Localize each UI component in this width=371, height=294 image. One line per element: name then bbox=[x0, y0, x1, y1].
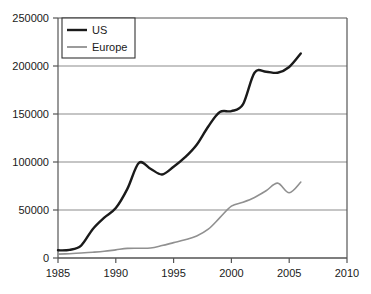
line-chart: 050000100000150000200000250000 198519901… bbox=[0, 0, 371, 294]
y-axis-ticks bbox=[53, 18, 58, 258]
x-tick-label: 1990 bbox=[104, 267, 128, 279]
legend-label-europe: Europe bbox=[92, 41, 127, 53]
legend-label-us: US bbox=[92, 24, 107, 36]
y-tick-label: 150000 bbox=[12, 108, 49, 120]
x-axis-tick-labels: 198519901995200020052010 bbox=[46, 267, 359, 279]
y-tick-label: 100000 bbox=[12, 156, 49, 168]
x-tick-label: 2005 bbox=[277, 267, 301, 279]
x-tick-label: 1985 bbox=[46, 267, 70, 279]
x-tick-label: 2010 bbox=[335, 267, 359, 279]
y-tick-label: 250000 bbox=[12, 12, 49, 24]
chart-canvas: 050000100000150000200000250000 198519901… bbox=[0, 0, 371, 294]
y-axis-tick-labels: 050000100000150000200000250000 bbox=[12, 12, 49, 264]
y-tick-label: 0 bbox=[43, 252, 49, 264]
y-tick-label: 200000 bbox=[12, 60, 49, 72]
y-tick-label: 50000 bbox=[18, 204, 49, 216]
legend: US Europe bbox=[62, 18, 135, 58]
x-axis-ticks bbox=[58, 258, 347, 263]
x-tick-label: 2000 bbox=[219, 267, 243, 279]
x-tick-label: 1995 bbox=[161, 267, 185, 279]
